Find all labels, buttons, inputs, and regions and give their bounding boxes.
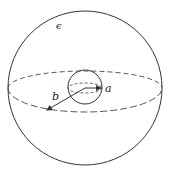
outer-equator-front <box>8 88 162 112</box>
radius-a-label: a <box>105 82 112 95</box>
inner-sphere <box>68 70 102 104</box>
epsilon-label: ϵ <box>56 20 62 31</box>
concentric-spheres-diagram: ϵ a b <box>0 0 171 177</box>
outer-equator-back <box>8 71 162 88</box>
radius-b-label: b <box>52 90 59 103</box>
